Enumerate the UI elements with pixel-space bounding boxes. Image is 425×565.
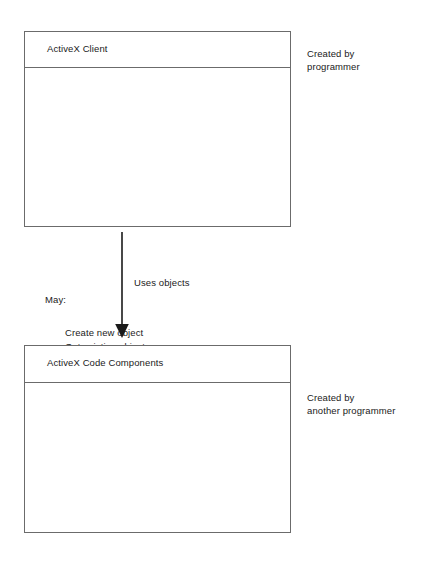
client-box-header: ActiveX Client [25,32,290,68]
activex-code-components-box[interactable]: ActiveX Code Components Defines and expo… [24,345,291,533]
client-annotation: Created by programmer [307,47,360,73]
diagram-canvas: ActiveX Client May: Create new object Ge… [0,0,425,565]
client-annotation-line-2: programmer [307,60,360,73]
arrow-label: Uses objects [134,277,190,289]
client-box-title: ActiveX Client [47,43,108,55]
component-box-header: ActiveX Code Components [25,346,290,383]
component-annotation: Created by another programmer [307,391,395,417]
component-box-title: ActiveX Code Components [47,357,163,369]
activex-client-box[interactable]: ActiveX Client May: Create new object Ge… [24,31,291,227]
client-annotation-line-1: Created by [307,47,360,60]
component-annotation-line-1: Created by [307,391,395,404]
component-annotation-line-2: another programmer [307,404,395,417]
client-capabilities-intro: May: [45,294,66,306]
